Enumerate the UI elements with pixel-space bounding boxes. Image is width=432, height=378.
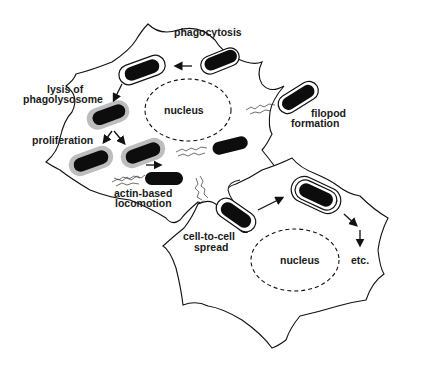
label-filopod-line2: formation	[291, 117, 339, 129]
label-nucleus-1: nucleus	[164, 104, 204, 116]
label-spread-line2: spread	[194, 241, 228, 253]
label-proliferation: proliferation	[32, 134, 93, 146]
label-etc: etc.	[351, 254, 369, 266]
label-phagocytosis: phagocytosis	[174, 26, 242, 38]
label-nucleus-2: nucleus	[280, 254, 320, 266]
diagram-svg: phagocytosis lysis of phagolysosome nucl…	[0, 0, 432, 378]
label-actin-line2: locomotion	[115, 197, 172, 209]
label-lysis-line2: phagolysosome	[23, 93, 103, 105]
bacterium-motile-1	[145, 172, 183, 185]
infection-cycle-diagram: phagocytosis lysis of phagolysosome nucl…	[0, 0, 432, 378]
